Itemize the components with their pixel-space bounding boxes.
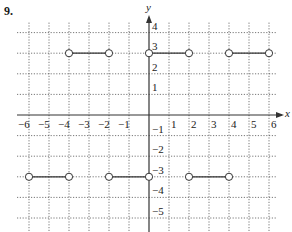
open-circle-icon [65, 173, 72, 180]
x-tick-label: 4 [231, 118, 237, 130]
x-tick-label: −6 [18, 118, 30, 130]
y-tick-label: 3 [152, 40, 158, 52]
open-circle-icon [185, 173, 192, 180]
x-tick-label: 5 [251, 118, 257, 130]
open-circle-icon [65, 50, 72, 57]
problem-number: 9. [4, 4, 13, 19]
y-tick-label: 1 [152, 81, 158, 93]
y-axis-label: y [145, 1, 151, 13]
y-tick-label: −3 [152, 164, 164, 176]
y-tick-label: −5 [152, 205, 164, 217]
open-circle-icon [145, 50, 152, 57]
y-tick-label: 2 [152, 61, 158, 73]
open-circle-icon [185, 50, 192, 57]
x-tick-label: −5 [38, 118, 50, 130]
x-tick-label: −2 [98, 118, 110, 130]
open-circle-icon [145, 173, 152, 180]
y-tick-label: −2 [152, 143, 164, 155]
x-tick-label: 2 [191, 118, 197, 130]
x-tick-label: 6 [271, 118, 277, 130]
y-tick-label: −4 [152, 184, 164, 196]
open-circle-icon [225, 173, 232, 180]
x-tick-label: 3 [211, 118, 217, 130]
open-circle-icon [225, 50, 232, 57]
open-circle-icon [105, 50, 112, 57]
x-axis-label: x [284, 107, 290, 119]
x-tick-label: 1 [171, 118, 177, 130]
open-circle-icon [265, 50, 272, 57]
x-axis-arrow-icon [276, 112, 284, 118]
open-circle-icon [25, 173, 32, 180]
x-tick-label: −4 [58, 118, 70, 130]
tick-labels: −6−5−4−3−2−1123456−5−4−3−2−11234 [18, 20, 277, 217]
step-function-graph: xy −6−5−4−3−2−1123456−5−4−3−2−11234 [0, 0, 292, 232]
open-circle-icon [105, 173, 112, 180]
y-tick-label: 4 [152, 20, 158, 32]
x-tick-label: −3 [78, 118, 90, 130]
figure: 9. xy −6−5−4−3−2−1123456−5−4−3−2−11234 [0, 0, 292, 232]
x-tick-label: −1 [118, 118, 130, 130]
y-tick-label: −1 [152, 123, 164, 135]
